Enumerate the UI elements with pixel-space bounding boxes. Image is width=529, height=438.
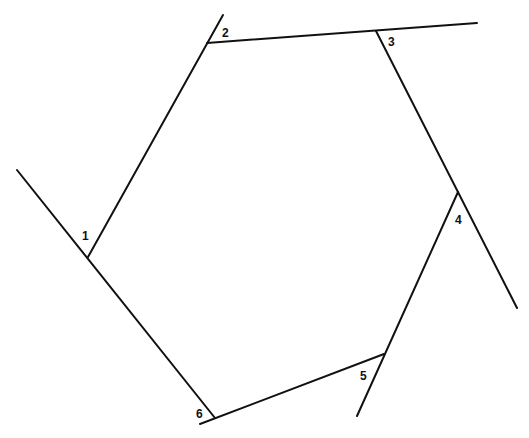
angle-label-4: 4 <box>455 213 462 227</box>
angle-label-2: 2 <box>222 26 229 40</box>
angle-label-1: 1 <box>82 229 89 243</box>
line-3-4 <box>376 31 517 308</box>
line-5-6 <box>200 354 384 424</box>
angle-label-3: 3 <box>388 35 395 49</box>
extended-sides <box>17 15 517 424</box>
angle-label-6: 6 <box>196 407 203 421</box>
line-4-5 <box>357 192 458 416</box>
line-2-3 <box>207 23 477 43</box>
angle-label-5: 5 <box>360 369 367 383</box>
hexagon-exterior-angles-diagram: 1 2 3 4 5 6 <box>0 0 529 438</box>
angle-labels: 1 2 3 4 5 6 <box>82 26 462 421</box>
line-1-2 <box>88 15 223 257</box>
